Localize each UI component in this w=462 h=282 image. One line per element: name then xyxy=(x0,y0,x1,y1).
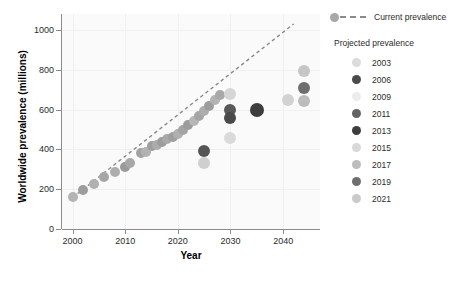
plot-area xyxy=(62,14,320,229)
x-axis-tick xyxy=(73,229,74,234)
x-axis-tick xyxy=(178,229,179,234)
x-axis-tick-label: 2020 xyxy=(168,236,188,246)
x-axis-tick-label: 2040 xyxy=(273,236,293,246)
y-axis-tick-label: 1000 xyxy=(34,25,54,35)
legend-projected-entries: 200320062009201120132015201720192021 xyxy=(330,54,462,207)
legend-marker-2019 xyxy=(352,177,361,186)
legend-label-2019: 2019 xyxy=(372,177,391,187)
legend-item-2021[interactable]: 2021 xyxy=(330,190,462,207)
data-point xyxy=(298,65,310,77)
y-axis-tick xyxy=(56,70,61,71)
legend-label-2017: 2017 xyxy=(372,160,391,170)
legend-item-2003[interactable]: 2003 xyxy=(330,54,462,71)
y-axis-tick-label: 0 xyxy=(49,224,54,234)
legend-dashed-line-icon xyxy=(340,16,366,18)
legend-item-2013[interactable]: 2013 xyxy=(330,122,462,139)
y-axis-line xyxy=(61,14,62,229)
data-point xyxy=(224,88,236,100)
legend-label-2003: 2003 xyxy=(372,58,391,68)
legend-label-current-prevalence: Current prevalence xyxy=(374,12,446,22)
chart-figure: 0200400600800100020002010202020302040 Wo… xyxy=(0,0,462,282)
y-axis-tick-label: 800 xyxy=(39,65,54,75)
x-axis-title: Year xyxy=(62,250,320,261)
legend-group-title-projected: Projected prevalence xyxy=(334,38,462,48)
legend-marker-2009 xyxy=(352,92,361,101)
data-point xyxy=(224,112,236,124)
legend-item-2009[interactable]: 2009 xyxy=(330,88,462,105)
y-axis-tick xyxy=(56,110,61,111)
legend-label-2011: 2011 xyxy=(372,109,390,119)
legend-item-2011[interactable]: 2011 xyxy=(330,105,462,122)
legend-marker-2006 xyxy=(352,75,361,84)
data-point xyxy=(224,132,236,144)
x-axis-tick-label: 2030 xyxy=(220,236,240,246)
data-point xyxy=(78,185,88,195)
data-point xyxy=(89,179,99,189)
data-point xyxy=(68,192,78,202)
data-point xyxy=(282,94,294,106)
x-axis-tick xyxy=(125,229,126,234)
data-point xyxy=(198,145,210,157)
legend-marker-2013 xyxy=(352,126,361,135)
data-point xyxy=(198,157,210,169)
data-point xyxy=(125,158,135,168)
data-point xyxy=(99,172,109,182)
x-axis-tick xyxy=(230,229,231,234)
legend-marker-2011 xyxy=(352,109,361,118)
legend-item-2015[interactable]: 2015 xyxy=(330,139,462,156)
data-point xyxy=(250,103,264,117)
legend-label-2015: 2015 xyxy=(372,143,391,153)
x-axis-tick-label: 2000 xyxy=(63,236,83,246)
legend-label-2013: 2013 xyxy=(372,126,391,136)
legend-label-2009: 2009 xyxy=(372,92,391,102)
data-point xyxy=(215,90,225,100)
legend-item-current-prevalence[interactable]: Current prevalence xyxy=(330,10,462,24)
legend-marker-2015 xyxy=(352,143,361,152)
y-axis-tick xyxy=(56,30,61,31)
y-axis-title: Worldwide prevalence (millions) xyxy=(17,27,28,227)
data-point xyxy=(110,167,120,177)
data-point xyxy=(298,95,310,107)
y-axis-tick-label: 200 xyxy=(39,184,54,194)
legend-item-2019[interactable]: 2019 xyxy=(330,173,462,190)
legend-marker-2003 xyxy=(352,58,361,67)
legend-item-2006[interactable]: 2006 xyxy=(330,71,462,88)
x-axis-tick-label: 2010 xyxy=(115,236,135,246)
legend-marker-2021 xyxy=(352,194,361,203)
legend: Current prevalence Projected prevalence … xyxy=(330,10,462,207)
legend-label-2021: 2021 xyxy=(372,194,391,204)
y-axis-tick-label: 600 xyxy=(39,105,54,115)
legend-item-2017[interactable]: 2017 xyxy=(330,156,462,173)
y-axis-tick xyxy=(56,189,61,190)
legend-marker-current-prevalence xyxy=(330,13,339,22)
y-axis-tick xyxy=(56,229,61,230)
y-axis-tick xyxy=(56,149,61,150)
legend-label-2006: 2006 xyxy=(372,75,391,85)
legend-marker-2017 xyxy=(352,160,361,169)
x-axis-tick xyxy=(283,229,284,234)
data-point xyxy=(298,82,310,94)
x-axis-line xyxy=(62,229,320,230)
y-axis-tick-label: 400 xyxy=(39,144,54,154)
